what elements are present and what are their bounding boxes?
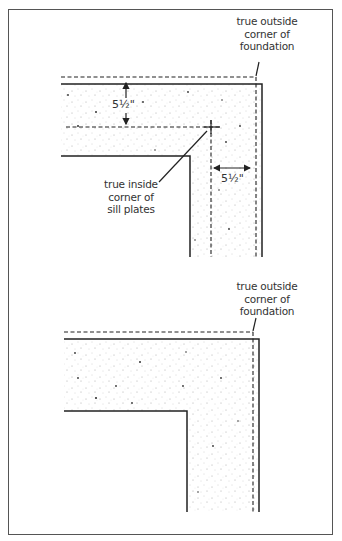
concrete-fill (64, 339, 259, 512)
bottom-panel (64, 318, 259, 512)
horizontal-dimension-label: 5½" (221, 172, 244, 185)
concrete-fill (61, 84, 262, 257)
top-panel (61, 62, 262, 257)
top-outside-corner-label: true outside corner of foundation (228, 15, 306, 53)
outside-corner-leader (253, 318, 256, 331)
bottom-outside-corner-label: true outside corner of foundation (228, 280, 306, 318)
vertical-dimension-label: 5½" (112, 98, 135, 111)
inside-corner-label: true inside corner of sill plates (95, 178, 167, 216)
inner-solid-edge (64, 411, 187, 512)
foundation-diagram (0, 0, 342, 541)
outside-corner-leader (256, 62, 259, 76)
